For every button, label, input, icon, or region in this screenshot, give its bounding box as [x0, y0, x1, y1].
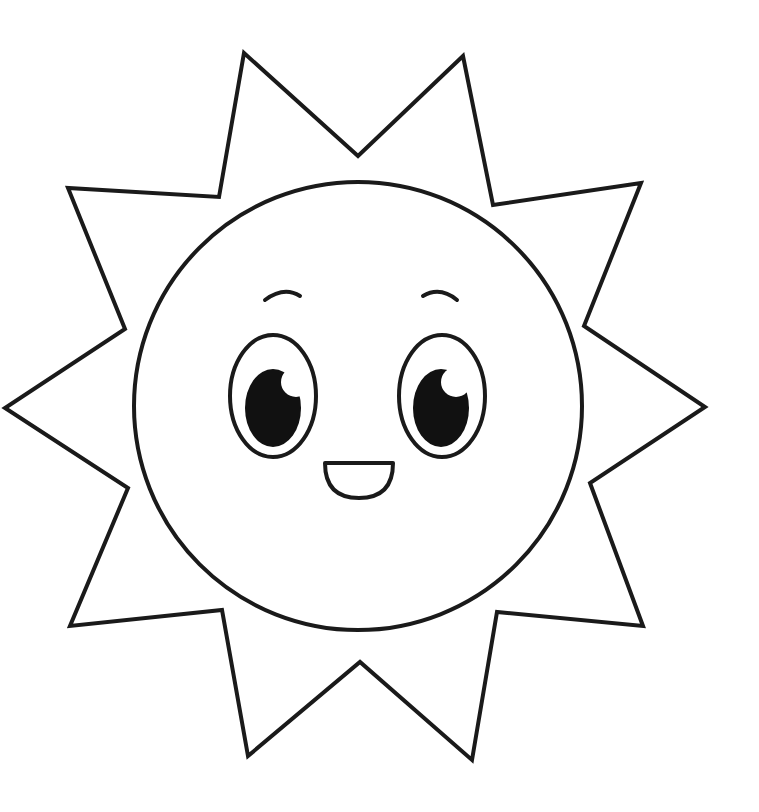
right-eye-highlight — [441, 367, 471, 397]
right-eye — [399, 335, 485, 457]
smiling-mouth — [325, 463, 393, 498]
sun-illustration — [0, 0, 759, 812]
left-eye-highlight — [281, 367, 311, 397]
left-eye — [230, 335, 316, 457]
sun-face — [134, 182, 582, 630]
